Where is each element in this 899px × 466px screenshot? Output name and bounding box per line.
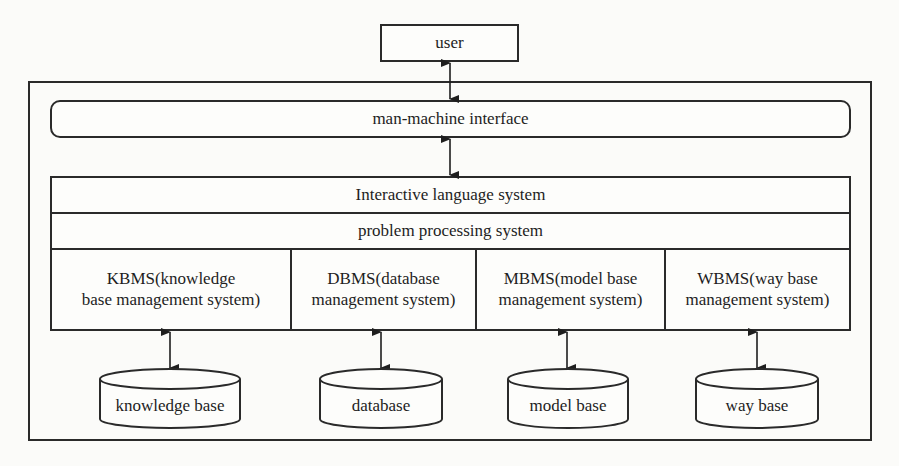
way-base-label: way base	[696, 396, 818, 416]
database-label: database	[320, 396, 442, 416]
knowledge-base-label: knowledge base	[100, 396, 240, 416]
model-base-label: model base	[508, 396, 628, 416]
